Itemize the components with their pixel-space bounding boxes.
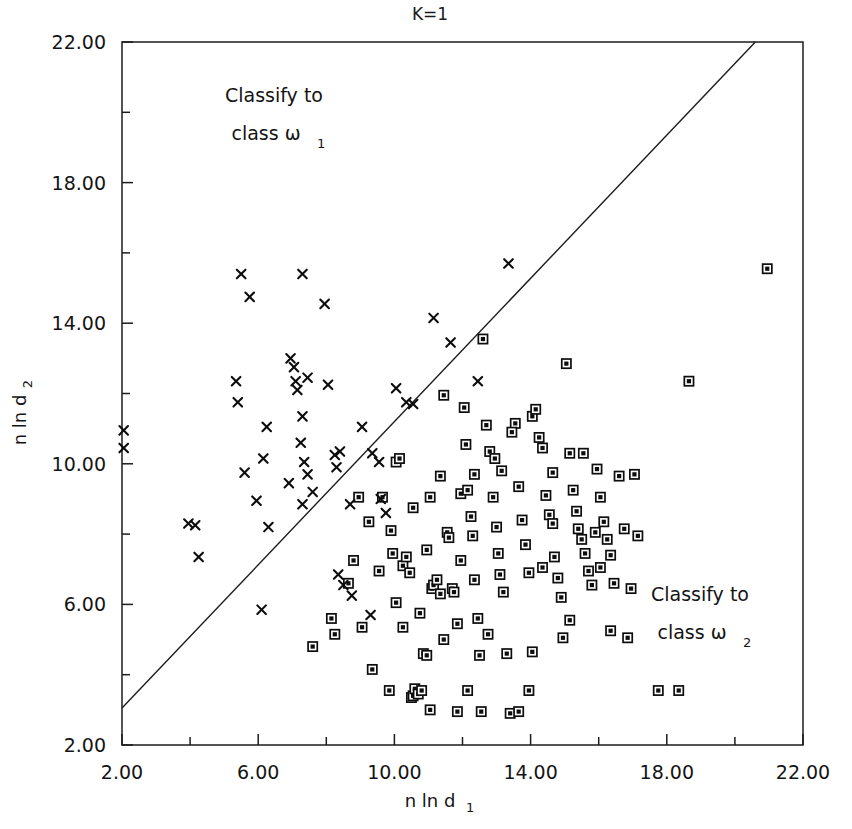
data-point-square bbox=[482, 421, 491, 430]
data-point-square bbox=[489, 493, 498, 502]
data-point-x bbox=[237, 270, 246, 279]
data-point-square bbox=[461, 440, 470, 449]
data-point-square bbox=[395, 454, 404, 463]
data-point-square bbox=[385, 686, 394, 695]
data-point-x bbox=[429, 314, 438, 323]
data-point-x bbox=[293, 386, 302, 395]
data-point-square bbox=[548, 468, 557, 477]
data-point-square bbox=[528, 647, 537, 656]
data-point-square bbox=[599, 517, 608, 526]
data-point-square bbox=[514, 707, 523, 716]
data-point-x bbox=[474, 377, 483, 386]
chart-title: K=1 bbox=[412, 4, 448, 24]
series-class-omega-1-points bbox=[119, 259, 512, 619]
data-point-square bbox=[548, 519, 557, 528]
data-point-x bbox=[303, 373, 312, 382]
data-point-square bbox=[615, 472, 624, 481]
annotation-2-subscript: 2 bbox=[743, 635, 751, 650]
data-point-square bbox=[477, 707, 486, 716]
data-point-square bbox=[623, 633, 632, 642]
data-point-square bbox=[592, 464, 601, 473]
data-point-square bbox=[463, 686, 472, 695]
data-point-square bbox=[511, 419, 520, 428]
data-point-square bbox=[392, 598, 401, 607]
data-point-x bbox=[285, 479, 294, 488]
y-tick-label: 14.00 bbox=[52, 312, 106, 334]
data-point-x bbox=[296, 438, 305, 447]
data-point-x bbox=[346, 500, 355, 509]
y-tick-label: 10.00 bbox=[52, 453, 106, 475]
data-point-x bbox=[366, 611, 375, 620]
data-point-x bbox=[298, 270, 307, 279]
data-point-square bbox=[596, 493, 605, 502]
data-point-x bbox=[119, 444, 128, 453]
data-point-x bbox=[119, 426, 128, 435]
scatter-plot-figure: K=1 n ln d 2 n ln d 1 2.006.0010.0014.00… bbox=[0, 0, 852, 829]
data-point-square bbox=[579, 449, 588, 458]
data-point-x bbox=[504, 259, 513, 268]
data-point-square bbox=[386, 526, 395, 535]
data-point-x bbox=[368, 449, 377, 458]
data-point-square bbox=[531, 405, 540, 414]
data-point-square bbox=[565, 616, 574, 625]
data-point-square bbox=[633, 531, 642, 540]
plot-canvas: K=1 n ln d 2 n ln d 1 2.006.0010.0014.00… bbox=[0, 0, 852, 829]
data-point-x bbox=[233, 398, 242, 407]
data-point-square bbox=[444, 533, 453, 542]
data-point-square bbox=[426, 705, 435, 714]
data-point-square bbox=[517, 515, 526, 524]
data-point-square bbox=[436, 589, 445, 598]
data-point-x bbox=[446, 338, 455, 347]
data-point-square bbox=[468, 531, 477, 540]
data-point-square bbox=[478, 334, 487, 343]
data-point-x bbox=[300, 458, 309, 467]
data-point-x bbox=[291, 377, 300, 386]
x-axis-label: n ln d 1 bbox=[405, 790, 475, 815]
data-point-x bbox=[264, 523, 273, 532]
data-point-x bbox=[358, 423, 367, 432]
x-axis-label-main: n ln d bbox=[405, 790, 456, 811]
series-class-omega-2-points bbox=[308, 264, 772, 718]
data-point-square bbox=[364, 517, 373, 526]
data-point-square bbox=[426, 493, 435, 502]
y-tick-label: 6.00 bbox=[64, 593, 106, 615]
data-point-x bbox=[308, 488, 317, 497]
data-point-square bbox=[521, 540, 530, 549]
data-point-square bbox=[606, 551, 615, 560]
data-point-square bbox=[357, 623, 366, 632]
data-point-square bbox=[388, 549, 397, 558]
data-point-x bbox=[298, 500, 307, 509]
data-point-square bbox=[405, 568, 414, 577]
data-point-square bbox=[603, 535, 612, 544]
data-point-square bbox=[553, 573, 562, 582]
data-point-square bbox=[558, 633, 567, 642]
data-point-x bbox=[286, 354, 295, 363]
data-point-x bbox=[257, 605, 266, 614]
data-point-square bbox=[763, 264, 772, 273]
y-axis-label-subscript: 2 bbox=[20, 380, 35, 388]
y-axis-label: n ln d 2 bbox=[9, 380, 35, 445]
data-point-square bbox=[494, 549, 503, 558]
data-point-square bbox=[415, 609, 424, 618]
data-point-square bbox=[490, 454, 499, 463]
data-point-square bbox=[495, 570, 504, 579]
data-point-square bbox=[492, 522, 501, 531]
data-point-square bbox=[596, 563, 605, 572]
axis-tick-labels: 2.006.0010.0014.0018.0022.002.006.0010.0… bbox=[52, 31, 831, 783]
data-point-square bbox=[580, 549, 589, 558]
data-point-square bbox=[538, 563, 547, 572]
data-point-square bbox=[535, 433, 544, 442]
data-point-square bbox=[630, 470, 639, 479]
data-point-square bbox=[562, 359, 571, 368]
data-point-square bbox=[541, 491, 550, 500]
data-point-x bbox=[245, 293, 254, 302]
y-tick-label: 18.00 bbox=[52, 172, 106, 194]
data-point-square bbox=[354, 493, 363, 502]
data-point-square bbox=[456, 556, 465, 565]
data-point-x bbox=[184, 519, 193, 528]
data-point-square bbox=[470, 575, 479, 584]
data-point-square bbox=[569, 486, 578, 495]
data-point-x bbox=[262, 423, 271, 432]
data-point-square bbox=[684, 377, 693, 386]
data-point-square bbox=[330, 630, 339, 639]
